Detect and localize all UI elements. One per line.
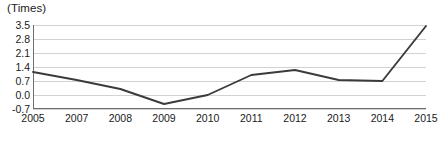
y-axis-unit-label: (Times) bbox=[7, 2, 46, 14]
plot-area bbox=[33, 25, 426, 109]
gridline bbox=[33, 109, 426, 110]
y-axis-tick-labels: 3.52.82.11.40.70.0-0.7 bbox=[0, 25, 30, 109]
y-axis-tick-label: 2.1 bbox=[15, 48, 30, 59]
y-axis-tick-label: 2.8 bbox=[15, 34, 30, 45]
data-series-line bbox=[33, 26, 426, 104]
y-axis-tick-label: 0.7 bbox=[15, 76, 30, 87]
x-axis-tick-labels: 2005200720082009201020112012201320142015 bbox=[33, 112, 426, 132]
x-axis-tick-label: 2007 bbox=[65, 112, 88, 125]
x-axis-tick-label: 2012 bbox=[283, 112, 306, 125]
x-axis-tick-label: 2008 bbox=[109, 112, 132, 125]
series-layer bbox=[33, 25, 426, 109]
x-axis-tick-label: 2013 bbox=[327, 112, 350, 125]
x-axis-tick-label: 2015 bbox=[414, 112, 437, 125]
x-axis-tick-label: 2010 bbox=[196, 112, 219, 125]
y-axis-tick-label: 3.5 bbox=[15, 20, 30, 31]
x-axis-tick-label: 2011 bbox=[240, 112, 263, 125]
x-axis-tick-label: 2014 bbox=[371, 112, 394, 125]
y-axis-tick-label: 0.0 bbox=[15, 90, 30, 101]
x-axis-tick-label: 2009 bbox=[152, 112, 175, 125]
x-axis-tick-label: 2005 bbox=[21, 112, 44, 125]
y-axis-tick-label: 1.4 bbox=[15, 62, 30, 73]
